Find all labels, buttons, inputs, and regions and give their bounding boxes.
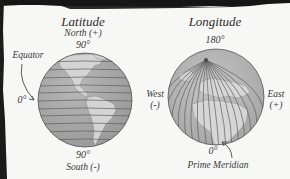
longitude-globe-icon [162,49,264,150]
east-label-group: East (+) [268,90,285,110]
south-label: South (-) [66,163,100,173]
equator-label: Equator [12,51,43,61]
east-sign: (+) [268,101,285,111]
latitude-title: Latitude [61,15,104,28]
west-label-group: West (-) [146,90,164,110]
south-degree: 90° [76,150,90,160]
prime-degree: 0° [209,146,218,156]
north-label: North (+) [64,29,101,39]
top-degree: 180° [206,35,225,45]
east-label: East [268,90,285,100]
latitude-globe-icon [38,52,132,147]
equator-degree: 0° [18,95,27,105]
prime-meridian-label: Prime Meridian [188,161,249,171]
longitude-title: Longitude [189,15,242,28]
west-sign: (-) [146,101,164,111]
west-label: West [146,90,164,100]
north-degree: 90° [76,40,90,50]
globes-diagram [0,0,290,179]
